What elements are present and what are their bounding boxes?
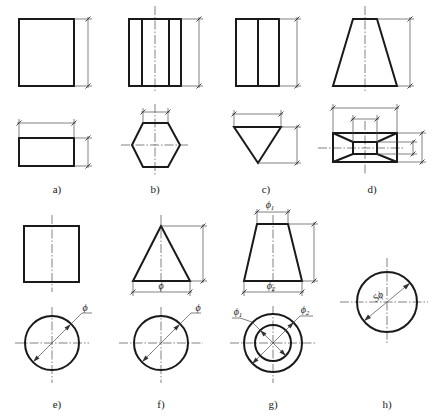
panel-label-a: a) xyxy=(53,183,62,196)
panel-label-d: d) xyxy=(367,183,377,196)
panel-label-e: e) xyxy=(53,398,62,411)
top-view-rect xyxy=(19,138,74,166)
phi1-symbol: ϕ1 xyxy=(266,199,275,212)
panel-label-b: b) xyxy=(150,183,160,196)
panel-label-g: g) xyxy=(268,398,278,411)
diameter-leader xyxy=(142,313,191,362)
phi2-symbol: ϕ2 xyxy=(301,304,310,317)
panel-d: d) xyxy=(318,6,426,196)
panel-h: Sϕ h) xyxy=(340,258,428,411)
phi-symbol: ϕ xyxy=(158,280,163,291)
triangle-front-view xyxy=(133,226,190,281)
phi1-symbol: ϕ1 xyxy=(234,306,243,319)
panel-label-c: c) xyxy=(262,183,271,196)
phi-symbol: ϕ xyxy=(195,302,200,313)
panel-e: ϕ e) xyxy=(15,215,92,411)
sphere-phi-symbol: Sϕ xyxy=(370,289,385,304)
panel-label-f: f) xyxy=(157,398,165,411)
phi-symbol: ϕ xyxy=(82,302,87,313)
front-view-rect xyxy=(19,19,74,86)
diameter-leader xyxy=(33,313,82,362)
panel-g: ϕ1 ϕ2 ϕ1 ϕ2 g) xyxy=(230,199,318,411)
panel-a: a) xyxy=(17,17,93,197)
panel-f: ϕ ϕ f) xyxy=(119,215,207,411)
panel-label-h: h) xyxy=(382,398,392,411)
panel-b: b) xyxy=(121,6,203,196)
panel-c: c) xyxy=(232,17,302,197)
drawing-canvas: a) b) xyxy=(0,0,439,417)
square-front-view xyxy=(24,226,79,282)
triangle-top-view xyxy=(234,127,281,163)
